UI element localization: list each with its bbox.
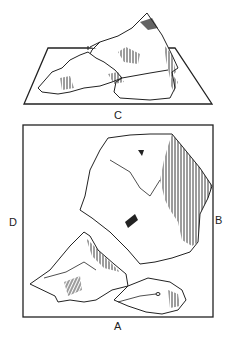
label-d: D [9,217,17,228]
label-c: C [114,110,122,121]
label-b: B [215,215,222,226]
label-a: A [114,321,121,332]
small-peak [38,52,122,94]
terrain-diagram [0,0,234,344]
